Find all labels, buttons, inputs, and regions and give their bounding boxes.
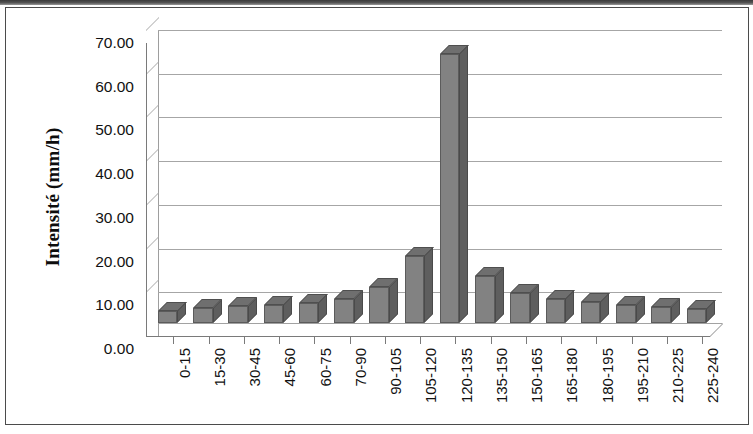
x-axis-category-label: 30-45 <box>246 348 263 418</box>
y-axis-tick-label: 70.00 <box>56 34 134 52</box>
bar-front-face <box>405 256 425 323</box>
bar <box>475 276 495 323</box>
bar <box>510 293 530 323</box>
bar <box>616 305 636 323</box>
x-axis-category-label: 45-60 <box>281 348 298 418</box>
x-axis-tick <box>385 336 386 344</box>
bar-chart: Intensité (mm/h) 70.0060.0050.0040.0030.… <box>0 0 753 434</box>
bar-side-face <box>389 278 398 323</box>
bar-front-face <box>334 299 354 323</box>
x-axis-tick <box>350 336 351 344</box>
bar-side-face <box>530 284 539 323</box>
x-axis-tick <box>596 336 597 344</box>
bars-group <box>146 30 722 336</box>
bar <box>228 306 248 323</box>
bar-front-face <box>299 303 319 323</box>
x-axis-category-labels: 0-1515-3030-4545-6060-7570-9090-105105-1… <box>146 348 722 428</box>
bar-front-face <box>616 305 636 323</box>
x-axis-category-label: 0-15 <box>176 348 193 418</box>
x-axis-tick <box>420 336 421 344</box>
bar-front-face <box>581 302 601 323</box>
y-axis-tick-labels: 70.0060.0050.0040.0030.0020.0010.000.00 <box>56 28 134 350</box>
x-axis-category-label: 70-90 <box>352 348 369 418</box>
x-axis-tick <box>455 336 456 344</box>
x-axis-category-label: 15-30 <box>211 348 228 418</box>
plot-area <box>146 30 722 346</box>
x-axis-category-label: 180-195 <box>599 348 616 418</box>
bar <box>264 305 284 323</box>
bar <box>687 309 707 323</box>
x-axis-category-label: 225-240 <box>704 348 721 418</box>
bar <box>581 302 601 323</box>
bar <box>158 311 178 323</box>
y-axis-tick-label: 10.00 <box>56 296 134 314</box>
x-axis-tick <box>279 336 280 344</box>
x-axis-category-label: 135-150 <box>493 348 510 418</box>
bar-front-face <box>510 293 530 323</box>
bar <box>405 256 425 323</box>
x-axis-tick <box>667 336 668 344</box>
bar-front-face <box>193 308 213 323</box>
x-axis-category-label: 90-105 <box>387 348 404 418</box>
bar-front-face <box>369 287 389 323</box>
x-axis-tick <box>173 336 174 344</box>
y-axis-tick-label: 40.00 <box>56 165 134 183</box>
bar-side-face <box>495 267 504 323</box>
bar-front-face <box>440 54 460 323</box>
category-axis-line <box>146 336 710 337</box>
bar-front-face <box>546 299 566 323</box>
x-axis-category-label: 150-165 <box>528 348 545 418</box>
y-axis-tick-label: 60.00 <box>56 78 134 96</box>
bar <box>299 303 319 323</box>
bar-side-face <box>424 247 433 323</box>
bar-side-face <box>459 45 468 323</box>
x-axis-tick <box>491 336 492 344</box>
x-axis-category-label: 165-180 <box>563 348 580 418</box>
x-axis-tick <box>526 336 527 344</box>
bar-front-face <box>264 305 284 323</box>
bar <box>193 308 213 323</box>
figure-page: Intensité (mm/h) 70.0060.0050.0040.0030.… <box>0 0 753 434</box>
bar <box>369 287 389 323</box>
x-axis-tick <box>632 336 633 344</box>
x-axis-category-label: 195-210 <box>634 348 651 418</box>
y-axis-tick-label: 50.00 <box>56 121 134 139</box>
x-axis-category-label: 60-75 <box>317 348 334 418</box>
bar <box>651 307 671 323</box>
bar-front-face <box>475 276 495 323</box>
bar <box>440 54 460 323</box>
bar-front-face <box>158 311 178 323</box>
bar-front-face <box>687 309 707 323</box>
x-axis-tick <box>244 336 245 344</box>
y-axis-tick-label: 0.00 <box>56 340 134 358</box>
bar <box>546 299 566 323</box>
y-axis-tick-label: 20.00 <box>56 253 134 271</box>
x-axis-tick <box>702 336 703 344</box>
bar-front-face <box>228 306 248 323</box>
x-axis-category-label: 210-225 <box>669 348 686 418</box>
bar <box>334 299 354 323</box>
x-axis-category-label: 120-135 <box>458 348 475 418</box>
x-axis-tick <box>561 336 562 344</box>
bar-front-face <box>651 307 671 323</box>
y-axis-tick-label: 30.00 <box>56 209 134 227</box>
x-axis-tick <box>209 336 210 344</box>
x-axis-tick <box>314 336 315 344</box>
x-axis-category-label: 105-120 <box>422 348 439 418</box>
